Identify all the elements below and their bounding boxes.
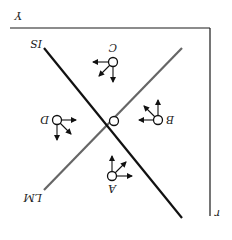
rotated-figure: r Y IS LM A B C <box>10 9 220 220</box>
point-c-label: C <box>108 41 117 54</box>
arrow-down-left-icon <box>115 162 126 173</box>
point-c: C <box>93 41 118 82</box>
lm-label: LM <box>23 191 43 204</box>
point-b-marker <box>154 116 163 125</box>
point-a-marker <box>108 172 117 181</box>
point-a-label: A <box>108 182 117 195</box>
point-b: B <box>139 100 175 126</box>
arrow-up-left-icon <box>60 123 71 134</box>
point-b-label: B <box>166 113 175 126</box>
point-d-marker <box>53 116 62 125</box>
y-axis-label: r <box>214 207 220 220</box>
arrow-up-right-icon <box>99 65 110 76</box>
is-label: IS <box>30 37 43 50</box>
point-d-label: D <box>40 113 50 126</box>
point-d: D <box>40 113 76 140</box>
x-axis-label: Y <box>13 9 22 22</box>
point-c-marker <box>109 58 118 67</box>
arrow-down-right-icon <box>144 106 155 117</box>
is-lm-diagram: r Y IS LM A B C <box>0 0 232 240</box>
equilibrium-point <box>110 117 119 126</box>
point-a: A <box>108 156 133 195</box>
